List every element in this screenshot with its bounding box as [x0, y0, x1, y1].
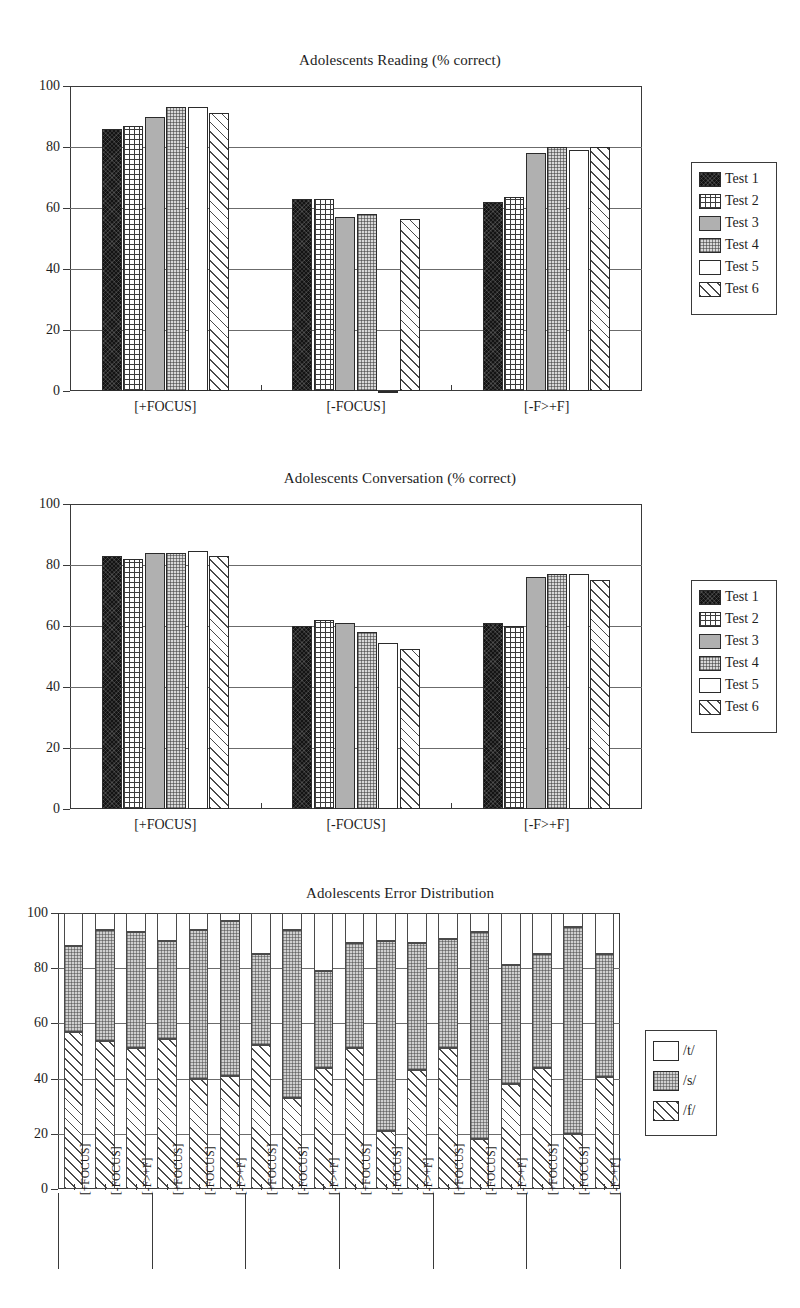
legend-swatch-t-icon — [653, 1041, 679, 1061]
bar — [123, 126, 143, 391]
stack-segment — [220, 921, 240, 1076]
x-tick-mark — [74, 1184, 75, 1190]
legend-item: Test 2 — [699, 608, 769, 630]
legend-swatch-test-4-icon — [699, 656, 721, 671]
x-axis-label: [+FOCUS] — [79, 1144, 91, 1195]
legend-swatch-test-2-icon — [699, 194, 721, 209]
stack-segment — [501, 965, 521, 1084]
bar — [483, 623, 503, 809]
legend-item: Test 6 — [699, 696, 769, 718]
y-tick-mark — [63, 147, 70, 148]
y-tick-mark — [63, 208, 70, 209]
bar — [547, 574, 567, 809]
legend-item: Test 1 — [699, 168, 769, 190]
group-separator — [526, 1193, 527, 1269]
x-axis-label: [-F>+F] — [235, 1158, 247, 1195]
y-tick-label: 0 — [18, 383, 60, 399]
legend-swatch-f-icon — [653, 1101, 679, 1121]
legend-conversation: Test 1 Test 2 Test 3 Test 4 Test 5 Test … — [691, 580, 777, 733]
x-tick-mark — [136, 1184, 137, 1190]
stack-segment — [376, 941, 396, 1131]
group-separator — [245, 1193, 246, 1269]
legend-swatch-test-1-icon — [699, 590, 721, 605]
x-axis-label: [+FOCUS] — [360, 1144, 372, 1195]
x-axis-label: [-F>+F] — [422, 1158, 434, 1195]
legend-swatch-test-6-icon — [699, 700, 721, 715]
legend-label: Test 1 — [725, 589, 759, 605]
bar — [292, 199, 312, 391]
stack-segment — [126, 932, 146, 1048]
stack-segment — [438, 913, 458, 939]
bar — [590, 147, 610, 391]
x-tick-mark — [451, 803, 452, 809]
x-axis-group-label: [-F>+F] — [451, 399, 642, 415]
y-tick-mark — [63, 330, 70, 331]
legend-error-distribution: /t/ /s/ /f/ — [645, 1030, 717, 1136]
bar — [526, 153, 546, 391]
y-tick-label: 40 — [6, 1071, 48, 1087]
bar — [292, 626, 312, 809]
x-tick-mark — [542, 1184, 543, 1190]
x-axis-group-label: [-F>+F] — [451, 817, 642, 833]
y-tick-mark — [63, 391, 70, 392]
legend-item: Test 4 — [699, 234, 769, 256]
bar — [526, 577, 546, 809]
chart-title-error-distribution: Adolescents Error Distribution — [0, 885, 800, 902]
y-tick-label: 80 — [18, 557, 60, 573]
legend-item: Test 6 — [699, 278, 769, 300]
y-tick-mark — [63, 86, 70, 87]
x-axis-label: [+FOCUS] — [266, 1144, 278, 1195]
x-tick-mark — [167, 1184, 168, 1190]
legend-label: Test 6 — [725, 699, 759, 715]
x-tick-mark — [261, 385, 262, 391]
legend-item: Test 2 — [699, 190, 769, 212]
stack-segment — [470, 913, 490, 932]
x-tick-mark — [261, 1184, 262, 1190]
legend-item: Test 5 — [699, 256, 769, 278]
x-tick-mark — [292, 1184, 293, 1190]
legend-swatch-test-3-icon — [699, 634, 721, 649]
legend-item: Test 4 — [699, 652, 769, 674]
group-separator — [339, 1193, 340, 1269]
stack-segment — [407, 943, 427, 1070]
x-axis-label: [+FOCUS] — [547, 1144, 559, 1195]
y-tick-mark — [51, 1079, 58, 1080]
bar — [504, 626, 524, 809]
stack-segment — [251, 954, 271, 1045]
legend-item: Test 3 — [699, 630, 769, 652]
stack-segment — [314, 913, 334, 971]
y-tick-mark — [51, 968, 58, 969]
legend-swatch-test-6-icon — [699, 282, 721, 297]
y-tick-label: 80 — [18, 139, 60, 155]
stack-segment — [314, 971, 334, 1068]
legend-label: Test 6 — [725, 281, 759, 297]
stack-segment — [345, 943, 365, 1048]
stack-segment — [64, 913, 84, 946]
y-tick-label: 20 — [18, 740, 60, 756]
plot-area-reading: 020406080100 [+FOCUS][-FOCUS][-F>+F] — [0, 86, 800, 436]
legend-label: Test 1 — [725, 171, 759, 187]
legend-swatch-test-3-icon — [699, 216, 721, 231]
bar — [145, 553, 165, 809]
chart-title-conversation: Adolescents Conversation (% correct) — [0, 470, 800, 487]
legend-label: Test 4 — [725, 655, 759, 671]
bar — [378, 643, 398, 809]
legend-reading: Test 1 Test 2 Test 3 Test 4 Test 5 Test … — [691, 162, 777, 315]
stack-segment — [345, 913, 365, 943]
stack-segment — [563, 927, 583, 1134]
bar — [209, 113, 229, 391]
y-tick-label: 60 — [18, 618, 60, 634]
legend-label: Test 4 — [725, 237, 759, 253]
bar — [378, 391, 398, 393]
legend-label: Test 2 — [725, 611, 759, 627]
x-axis-label: [-FOCUS] — [578, 1146, 590, 1195]
y-tick-label: 20 — [18, 322, 60, 338]
legend-swatch-test-4-icon — [699, 238, 721, 253]
bar — [547, 147, 567, 391]
y-tick-mark — [51, 913, 58, 914]
bar — [335, 623, 355, 809]
bar — [504, 197, 524, 391]
y-tick-label: 80 — [6, 960, 48, 976]
legend-item: /f/ — [653, 1096, 709, 1126]
bar — [209, 556, 229, 809]
